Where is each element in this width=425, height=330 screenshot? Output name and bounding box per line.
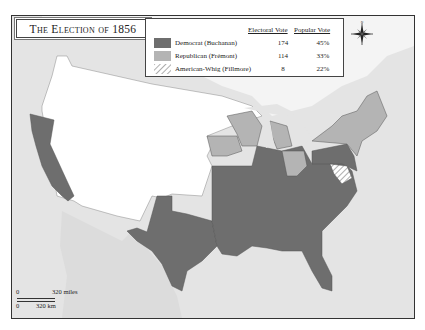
scale-miles-label: 320 miles [52,288,77,295]
scale-bar: 0 320 miles 0 320 km [16,288,86,316]
map-frame: The Election of 1856 Electoral Vote Popu… [11,15,415,319]
scale-km-label: 320 km [36,302,56,309]
map-title: The Election of 1856 [30,23,137,35]
legend-party: American-Whig (Fillmore) [175,65,263,73]
legend-party: Democrat (Buchanan) [175,39,263,47]
legend-row-american-whig: American-Whig (Fillmore) 8 22% [154,63,343,74]
american-whig-swatch [154,64,171,74]
legend-electoral: 114 [263,52,303,60]
legend-header-popular: Popular Vote [294,26,330,34]
legend-popular: 45% [303,39,343,47]
legend-popular: 33% [303,52,343,60]
legend-row-democrat: Democrat (Buchanan) 174 45% [154,37,343,48]
legend-header-electoral: Electoral Vote [248,26,288,34]
republican-swatch [154,51,171,61]
compass-rose-icon: N [349,21,375,47]
legend-electoral: 174 [263,39,303,47]
democrat-swatch [154,38,171,48]
legend-party: Republican (Frémont) [175,52,263,60]
map-title-box: The Election of 1856 [16,19,150,38]
legend-popular: 22% [303,65,343,73]
svg-text:N: N [361,21,364,24]
scale-zero-km: 0 [16,302,19,309]
state-iowa [207,136,242,156]
legend-row-republican: Republican (Frémont) 114 33% [154,50,343,61]
legend: Electoral Vote Popular Vote Democrat (Bu… [145,18,344,77]
legend-electoral: 8 [263,65,303,73]
scale-zero-miles: 0 [16,288,19,295]
